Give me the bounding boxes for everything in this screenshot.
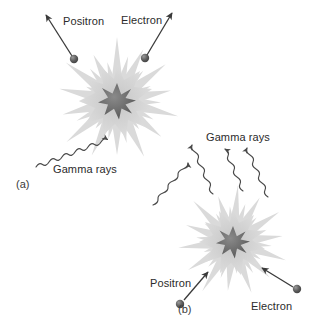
label-gamma-rays-a: Gamma rays [53,163,117,175]
electron-a-dot [141,54,149,62]
label-positron-b: Positron [150,277,191,289]
pair-production-burst-b [178,185,288,294]
electron-b-dot [293,285,301,293]
label-gamma-rays-b: Gamma rays [206,131,270,143]
annihilation-burst-a [58,37,179,159]
gamma-ray-b-2 [225,149,243,191]
gamma-ray-b-1 [191,145,213,194]
positron-a-dot [70,55,78,63]
physics-diagram-figure: Positron Electron Gamma rays (a) Gamma r… [0,0,319,332]
label-electron-a: Electron [121,14,162,26]
panel-b-gamma-rays [191,145,268,197]
electron-b-arrow [262,268,293,287]
gamma-ray-a-2 [153,163,188,205]
label-electron-b: Electron [251,300,292,312]
gamma-ray-b-3 [246,148,268,197]
panel-label-a: (a) [16,178,29,190]
label-positron-a: Positron [63,15,104,27]
panel-label-b: (b) [178,303,191,315]
